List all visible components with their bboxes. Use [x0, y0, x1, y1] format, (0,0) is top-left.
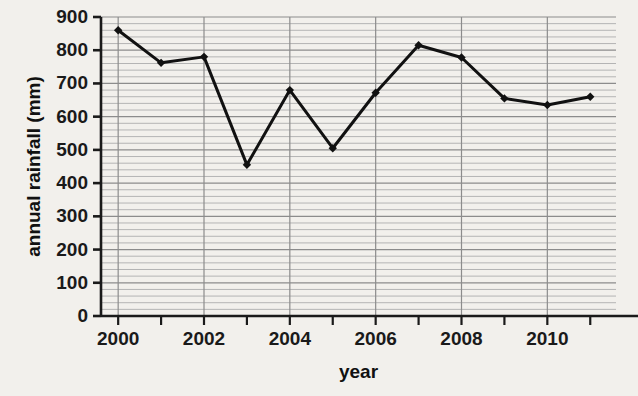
x-axis-tick-label: 2002	[183, 328, 225, 349]
x-axis-tick-label: 2006	[355, 328, 397, 349]
x-axis-tick-label: 2008	[440, 328, 482, 349]
y-axis-tick-label: 800	[56, 39, 88, 60]
x-axis-tick-label: 2000	[97, 328, 139, 349]
y-axis-tick-label: 900	[56, 6, 88, 27]
rainfall-line-chart: 0100200300400500600700800900 20002002200…	[0, 0, 638, 396]
y-axis-tick-label: 200	[56, 239, 88, 260]
y-axis-tick-label: 100	[56, 272, 88, 293]
x-axis-tick-label: 2004	[269, 328, 312, 349]
y-axis-tick-label: 300	[56, 205, 88, 226]
x-axis-tick-label: 2010	[526, 328, 568, 349]
x-axis-title: year	[339, 361, 379, 382]
y-axis-title: annual rainfall (mm)	[23, 76, 44, 257]
y-axis-tick-label: 400	[56, 172, 88, 193]
y-axis-tick-label: 600	[56, 106, 88, 127]
chart-figure: 0100200300400500600700800900 20002002200…	[0, 0, 638, 396]
y-axis-tick-label: 0	[77, 305, 88, 326]
y-axis-tick-label: 500	[56, 139, 88, 160]
y-axis-tick-label: 700	[56, 72, 88, 93]
